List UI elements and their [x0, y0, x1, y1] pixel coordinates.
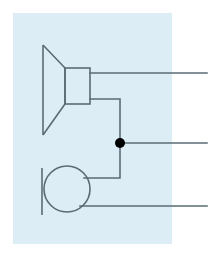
- schematic-diagram: [0, 0, 213, 261]
- diagram-background-panel: [13, 13, 172, 244]
- diagram-canvas: [0, 0, 213, 261]
- junction-node-dot: [115, 138, 125, 148]
